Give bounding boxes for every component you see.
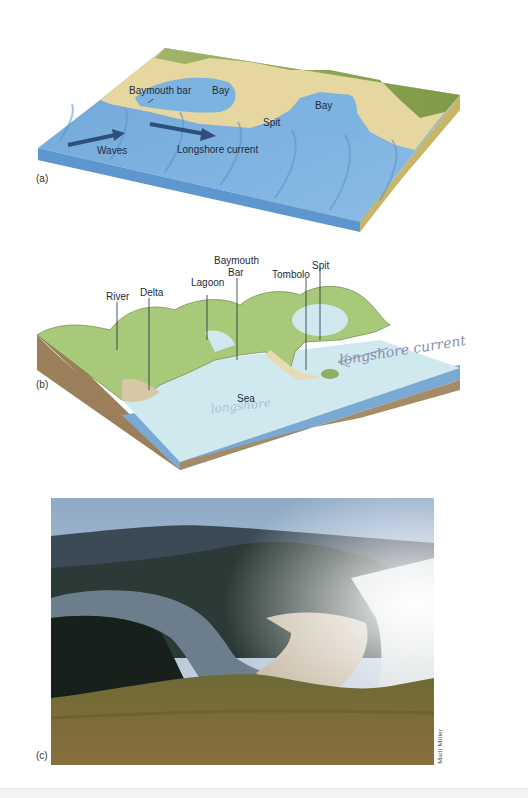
label-tombolo: Tombolo xyxy=(272,269,310,280)
coastline-photograph xyxy=(51,498,434,765)
panel-c-photo xyxy=(51,498,434,765)
label-bay-right: Bay xyxy=(315,100,332,111)
coastal-block-diagram-b xyxy=(0,240,528,480)
label-baymouth-bar-line2: Bar xyxy=(228,267,244,278)
panel-a-diagram: Baymouth bar Bay Bay Spit Waves Longshor… xyxy=(0,0,528,240)
photo-credit: Marli Miller xyxy=(436,729,444,764)
label-longshore-current: Longshore current xyxy=(177,144,258,155)
label-spit: Spit xyxy=(312,260,329,271)
label-delta: Delta xyxy=(140,287,163,298)
label-baymouth-bar: Baymouth bar xyxy=(129,85,191,96)
label-river: River xyxy=(106,291,129,302)
panel-label-b: (b) xyxy=(36,379,48,390)
label-spit: Spit xyxy=(263,117,280,128)
label-lagoon: Lagoon xyxy=(191,277,224,288)
panel-label-a: (a) xyxy=(36,173,48,184)
label-waves: Waves xyxy=(97,145,127,156)
label-bay-left: Bay xyxy=(212,85,229,96)
panel-label-c: (c) xyxy=(36,750,48,761)
panel-b-diagram: River Delta Lagoon Baymouth Bar Tombolo … xyxy=(0,240,528,480)
label-baymouth-bar-line1: Baymouth xyxy=(214,255,259,266)
page-bottom-edge xyxy=(0,788,528,798)
